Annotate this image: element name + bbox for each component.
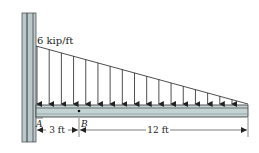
load-arrows <box>37 46 232 104</box>
fixed-wall-support <box>22 13 36 142</box>
beam <box>36 105 248 117</box>
point-b-marker <box>78 110 81 113</box>
dimension-12ft-label: 12 ft <box>147 125 169 135</box>
dimension-12ft: 12 ft <box>80 125 247 135</box>
cantilever-beam-diagram: 6 kip/ft A B 3 ft 12 ft <box>0 0 259 153</box>
point-a-label: A <box>35 119 43 129</box>
distributed-load <box>36 46 248 104</box>
load-envelope-line <box>36 46 248 104</box>
dimension-3ft: 3 ft <box>37 125 78 135</box>
dimension-3ft-label: 3 ft <box>49 125 65 135</box>
point-b-label: B <box>80 119 88 129</box>
load-label: 6 kip/ft <box>37 35 73 46</box>
